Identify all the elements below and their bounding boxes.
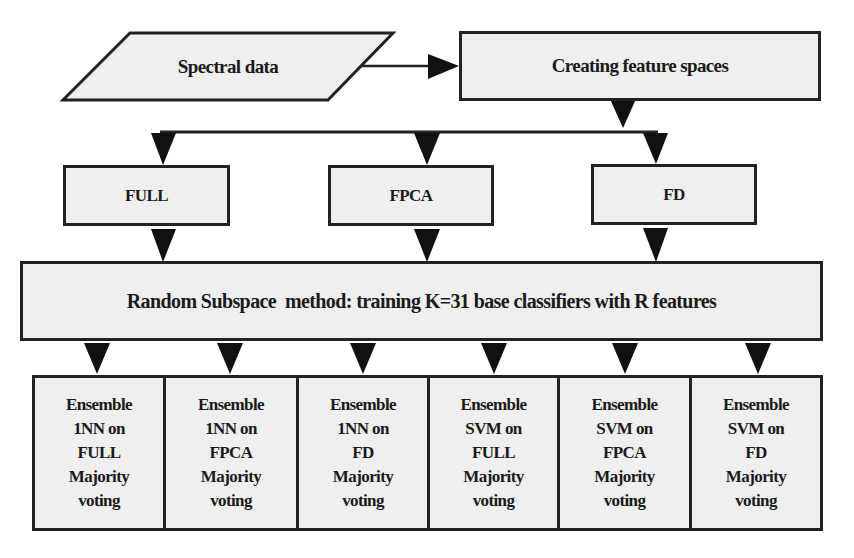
- ensemble-line: voting: [604, 489, 646, 513]
- ensemble-line: voting: [210, 489, 252, 513]
- ensemble-line: voting: [342, 489, 384, 513]
- feature-space-fpca: FPCA: [328, 165, 494, 226]
- arrow-rsm-to-ens-6: [745, 343, 771, 374]
- ensemble-line: Ensemble: [591, 393, 657, 417]
- feature-space-label: FPCA: [390, 186, 433, 206]
- feature-space-label: FULL: [125, 186, 168, 206]
- feature-space-full: FULL: [63, 165, 230, 226]
- ensemble-line: FPCA: [210, 441, 253, 465]
- ensemble-line: FULL: [472, 441, 515, 465]
- arrow-to-full: [151, 133, 176, 165]
- ensemble-line: Majority: [201, 465, 261, 489]
- ensemble-svm-full: Ensemble SVM on FULL Majority voting: [427, 375, 560, 531]
- ensemble-line: Ensemble: [198, 393, 264, 417]
- ensemble-line: Majority: [726, 465, 786, 489]
- ensemble-1nn-full: Ensemble 1NN on FULL Majority voting: [32, 375, 166, 531]
- ensemble-line: Majority: [594, 465, 654, 489]
- arrow-full-to-rsm: [151, 229, 176, 262]
- spectral-data-label: Spectral data: [63, 33, 393, 101]
- arrow-fd-to-rsm: [643, 228, 668, 262]
- arrow-rsm-to-ens-1: [84, 343, 110, 374]
- ensemble-line: voting: [735, 489, 777, 513]
- random-subspace-label: Random Subspace method: training K=31 ba…: [127, 290, 717, 313]
- ensemble-line: FULL: [78, 441, 121, 465]
- ensemble-line: Ensemble: [330, 393, 396, 417]
- ensemble-line: Ensemble: [723, 393, 789, 417]
- ensemble-1nn-fd: Ensemble 1NN on FD Majority voting: [296, 375, 430, 531]
- creating-feature-spaces-box: Creating feature spaces: [459, 31, 821, 101]
- ensemble-line: 1NN on: [73, 417, 125, 441]
- ensemble-line: SVM on: [596, 417, 652, 441]
- creating-feature-spaces-label: Creating feature spaces: [552, 55, 729, 77]
- ensemble-svm-fpca: Ensemble SVM on FPCA Majority voting: [557, 375, 692, 531]
- feature-space-fd: FD: [591, 164, 757, 225]
- ensemble-line: FD: [745, 441, 766, 465]
- ensemble-line: 1NN on: [337, 417, 389, 441]
- ensemble-line: FD: [352, 441, 373, 465]
- arrow-features-to-split: [610, 99, 636, 128]
- arrow-to-fpca: [414, 133, 440, 165]
- ensemble-line: SVM on: [465, 417, 521, 441]
- ensemble-line: Majority: [463, 465, 523, 489]
- ensemble-line: Majority: [69, 465, 129, 489]
- arrow-rsm-to-ens-2: [217, 343, 243, 374]
- feature-space-label: FD: [663, 185, 684, 205]
- arrow-to-fd: [643, 133, 668, 164]
- ensemble-svm-fd: Ensemble SVM on FD Majority voting: [689, 375, 823, 531]
- ensemble-1nn-fpca: Ensemble 1NN on FPCA Majority voting: [163, 375, 299, 531]
- ensemble-line: Ensemble: [66, 393, 132, 417]
- ensemble-line: voting: [78, 489, 120, 513]
- ensemble-line: Majority: [333, 465, 393, 489]
- arrow-fpca-to-rsm: [414, 229, 440, 262]
- ensemble-line: SVM on: [728, 417, 784, 441]
- arrow-rsm-to-ens-5: [612, 343, 638, 374]
- random-subspace-box: Random Subspace method: training K=31 ba…: [20, 261, 823, 341]
- ensemble-line: 1NN on: [205, 417, 257, 441]
- arrow-rsm-to-ens-3: [350, 343, 376, 374]
- arrow-rsm-to-ens-4: [481, 343, 507, 374]
- ensemble-line: FPCA: [603, 441, 646, 465]
- ensemble-line: voting: [473, 489, 515, 513]
- ensemble-line: Ensemble: [460, 393, 526, 417]
